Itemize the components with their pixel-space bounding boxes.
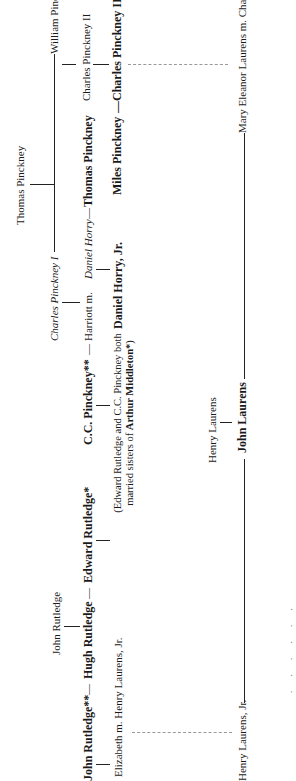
elizabeth-rutledge: Elizabeth m. Henry Laurens, Jr.: [112, 637, 124, 777]
sibling-dash: —: [82, 208, 94, 219]
connector-line: [96, 540, 110, 541]
connector-line: [30, 184, 54, 185]
note-text: married sisters of: [124, 430, 135, 506]
connector-line: [220, 422, 232, 423]
sibling-dash: —: [111, 101, 123, 113]
daniel-horry: Daniel Horry: [82, 219, 94, 279]
connector-line: [244, 133, 245, 379]
connector-line: [93, 64, 109, 65]
marriage-note: (Edward Rutledge and C.C. Pinckney both …: [112, 323, 136, 523]
mary-eleanor-laurens: Mary Eleanor Laurens m. Charles Pinckney…: [236, 0, 248, 133]
thomas-pinckney-root: Thomas Pinckney: [14, 146, 26, 225]
sibling-dash: —: [82, 588, 94, 599]
connector-line: [62, 64, 76, 65]
sibling-dash: —: [82, 684, 94, 695]
hugh-rutledge: Hugh Rutledge: [82, 601, 94, 679]
connector-line: [62, 302, 80, 303]
connector-line: [96, 269, 110, 270]
john-rutledge-root: John Rutledge: [50, 592, 62, 655]
connector-line: [244, 459, 245, 703]
edward-rutledge: Edward Rutledge*: [82, 487, 94, 583]
connector-line: [64, 626, 80, 627]
note-line-1: (Edward Rutledge and C.C. Pinckney both: [112, 323, 124, 523]
john-laurens: John Laurens: [236, 382, 248, 453]
thomas-pinckney-son: Thomas Pinckney: [82, 115, 94, 207]
harriott: Harriott m.: [82, 292, 94, 341]
charles-pinckney-iii: Charles Pinckney III**: [111, 0, 123, 101]
arthur-middleton: Arthur Middleton*: [124, 344, 135, 430]
william-pinckney: William Pinckney: [48, 0, 60, 54]
connector-line: [96, 764, 110, 765]
note-text: ): [124, 340, 135, 344]
connector-line: [96, 405, 110, 406]
charles-pinckney-i: Charles Pinckney I: [48, 257, 60, 341]
sibling-dash: —: [82, 344, 94, 355]
miles-pinckney: Miles Pinckney: [111, 117, 123, 195]
caption-fragment: . . . . . .: [284, 602, 294, 693]
charles-pinckney-ii: Charles Pinckney II: [80, 14, 92, 101]
henry-laurens: Henry Laurens: [206, 397, 218, 463]
henry-laurens-jr: Henry Laurens, Jr.: [236, 700, 248, 781]
daniel-horry-jr: Daniel Horry, Jr.: [112, 242, 124, 329]
connector-line: [54, 54, 55, 252]
dashed-marriage-link: [132, 732, 232, 733]
cc-pinckney: C.C. Pinckney**: [82, 359, 94, 445]
note-line-2: married sisters of Arthur Middleton*): [124, 323, 136, 523]
john-rutledge: John Rutledge**: [82, 695, 94, 781]
dashed-marriage-link: [128, 64, 228, 65]
